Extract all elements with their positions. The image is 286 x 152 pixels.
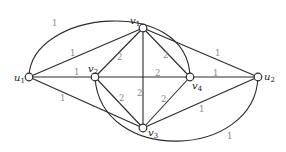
- weight-v3-u2: 1: [199, 104, 204, 114]
- edges: [29, 21, 258, 141]
- weight-v2-v3: 2: [119, 93, 124, 103]
- edge-u1-v3: [29, 77, 143, 128]
- label-u2: u2: [264, 71, 275, 84]
- edge-u1-v4-arc: [29, 21, 190, 77]
- label-v1: v1: [130, 15, 140, 28]
- weight-v2-v4: 2: [155, 68, 160, 78]
- weight-u1-v4-arc: 1: [52, 18, 57, 28]
- node-u1: [25, 73, 33, 81]
- weight-v1-u2: 1: [215, 48, 220, 58]
- edge-v2-u2-arc: [95, 77, 258, 141]
- node-u2: [254, 73, 262, 81]
- weight-v4-u2: 1: [213, 68, 218, 78]
- label-v2: v2: [88, 63, 98, 76]
- weight-v1-v2: 2: [117, 52, 122, 62]
- node-v1: [139, 24, 147, 32]
- edge-u1-v1: [29, 28, 143, 77]
- graph-diagram: 1 1 1 1 2 2 1 2 2 2 2 1 1 1 u1 v1 v2 v4 …: [0, 0, 286, 152]
- weight-u1-v2: 1: [74, 67, 79, 77]
- label-u1: u1: [14, 72, 25, 85]
- weight-v1-v4: 2: [163, 50, 168, 60]
- weight-u1-v3: 1: [60, 93, 65, 103]
- weight-v2-u2-arc: 1: [227, 131, 232, 141]
- weight-v3-v4: 2: [161, 94, 166, 104]
- weight-v1-v3: 2: [137, 88, 142, 98]
- edge-weights: 1 1 1 1 2 2 1 2 2 2 2 1 1 1: [52, 18, 232, 141]
- label-v4: v4: [192, 80, 203, 93]
- edge-v3-v4: [143, 77, 190, 128]
- weight-u1-v1: 1: [70, 48, 75, 58]
- node-v3: [139, 124, 147, 132]
